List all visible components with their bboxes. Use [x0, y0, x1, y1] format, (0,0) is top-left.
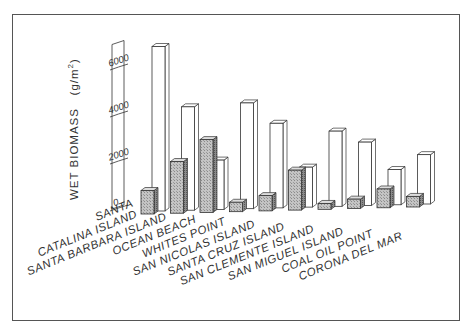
bar-shaded — [141, 188, 158, 215]
bar-group — [377, 167, 405, 208]
bar-chart: 0200040006000 SANTACATALINA ISLANDSANTA … — [0, 0, 468, 333]
bar-group — [200, 137, 228, 213]
bar-shaded — [377, 186, 394, 208]
y-axis: 0200040006000 — [106, 41, 131, 212]
y-tick-label: 6000 — [107, 51, 131, 68]
y-tick-label: 4000 — [107, 98, 131, 115]
bar-shaded — [259, 193, 276, 211]
bars — [141, 44, 435, 215]
bar-group — [318, 128, 346, 209]
bar-group — [407, 152, 435, 207]
y-tick-label: 2000 — [106, 145, 131, 163]
bar-group — [141, 44, 169, 215]
bar-open — [329, 128, 346, 206]
bar-shaded — [200, 137, 217, 213]
bar-shaded — [289, 167, 306, 210]
bar-shaded — [230, 199, 247, 211]
bar-group — [289, 164, 317, 210]
bar-group — [171, 104, 199, 213]
bar-shaded — [348, 196, 365, 208]
bar-shaded — [318, 200, 335, 209]
bar-group — [230, 100, 258, 212]
bar-open — [152, 44, 169, 212]
bar-shaded — [171, 159, 188, 214]
bar-group — [348, 139, 376, 208]
bar-open — [241, 100, 258, 209]
bar-shaded — [407, 193, 424, 207]
bar-group — [259, 120, 287, 211]
bar-open — [359, 139, 376, 205]
